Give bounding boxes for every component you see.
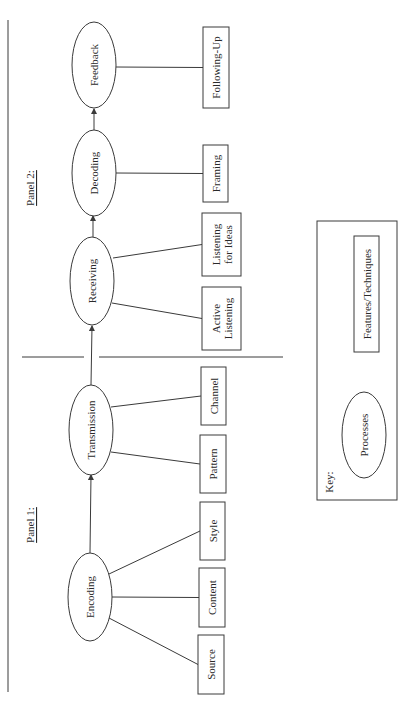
process-node-feedback: Feedback xyxy=(72,22,116,108)
key-legend: Key:ProcessesFeatures/Techniques xyxy=(317,221,397,500)
arrow-encoding-to-transmission xyxy=(90,475,91,553)
connector-layer xyxy=(8,20,283,692)
feature-label: Listening xyxy=(210,223,222,265)
feature-box-source: Source xyxy=(198,635,224,694)
process-label: Transmission xyxy=(85,400,97,459)
feature-box-content: Content xyxy=(199,568,225,627)
connector-receiving-active-listening xyxy=(112,303,202,319)
feature-box-listening-for-ideas: Listeningfor Ideas xyxy=(202,213,241,276)
key-process-label: Processes xyxy=(358,414,370,457)
feature-label: Channel xyxy=(208,378,220,415)
connector-receiving-listening-for-ideas xyxy=(113,245,202,259)
process-label: Encoding xyxy=(84,575,96,618)
connector-decoding-framing xyxy=(116,173,203,174)
process-node-encoding: Encoding xyxy=(68,553,112,641)
shape-layer: Panel 1:Panel 2:SourceContentStylePatter… xyxy=(24,22,241,694)
connector-feedback-following-up xyxy=(116,67,203,68)
connector-transmission-channel xyxy=(111,396,201,407)
panel-label-panel2: Panel 2: xyxy=(24,170,36,206)
process-label: Receiving xyxy=(86,258,98,303)
feature-box-pattern: Pattern xyxy=(200,435,226,493)
key-title: Key: xyxy=(323,471,335,492)
panel-label-panel1: Panel 1: xyxy=(24,507,36,543)
process-node-receiving: Receiving xyxy=(70,237,114,325)
feature-label: Active xyxy=(210,304,222,333)
process-node-transmission: Transmission xyxy=(69,385,113,475)
communication-process-diagram: Panel 1:Panel 2:SourceContentStylePatter… xyxy=(0,0,417,719)
arrow-transmission-to-receiving xyxy=(91,326,92,385)
process-label: Decoding xyxy=(88,151,100,194)
feature-label: Style xyxy=(207,520,219,543)
feature-label: Framing xyxy=(210,154,222,192)
feature-label: Pattern xyxy=(207,448,219,480)
process-node-decoding: Decoding xyxy=(72,130,116,216)
process-label: Feedback xyxy=(88,43,100,86)
feature-box-active-listening: ActiveListening xyxy=(202,287,241,350)
feature-label: Source xyxy=(205,649,217,680)
connector-encoding-content xyxy=(112,597,199,598)
connector-encoding-style xyxy=(109,531,200,574)
feature-box-channel: Channel xyxy=(201,367,226,425)
feature-box-following-up: Following-Up xyxy=(203,27,229,108)
feature-box-framing: Framing xyxy=(203,145,228,202)
feature-label: Listening xyxy=(222,297,234,339)
feature-label: for Ideas xyxy=(222,225,234,264)
connector-transmission-pattern xyxy=(111,452,200,464)
feature-label: Following-Up xyxy=(210,36,222,99)
key-feature-label: Features/Techniques xyxy=(361,249,373,339)
feature-label: Content xyxy=(206,580,218,615)
feature-box-style: Style xyxy=(200,502,225,560)
connector-encoding-source xyxy=(109,618,198,665)
